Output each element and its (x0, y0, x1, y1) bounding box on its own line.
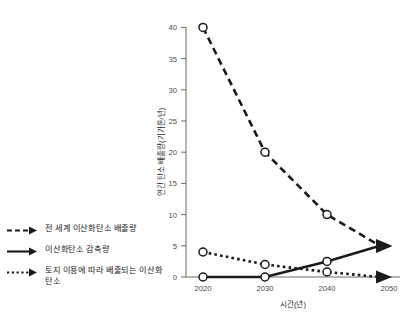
data-point-marker (323, 257, 331, 265)
series-emission-reduction-arrowhead (376, 239, 392, 253)
y-tick-label-40: 40 (169, 23, 177, 32)
y-tick-label-35: 35 (169, 55, 177, 64)
series-emission-reduction (199, 239, 392, 281)
series-land-use-emissions-arrowhead (376, 271, 392, 284)
data-point-marker (199, 23, 207, 31)
data-point-marker (323, 268, 331, 276)
data-point-marker (261, 261, 269, 269)
data-point-marker (261, 273, 269, 281)
y-tick-label-0: 0 (173, 273, 177, 282)
y-tick-label-15: 15 (169, 179, 177, 188)
data-point-marker (199, 273, 207, 281)
y-tick-label-10: 10 (169, 211, 177, 220)
y-tick-label-5: 5 (173, 242, 177, 251)
data-point-marker (199, 248, 207, 256)
y-tick-label-30: 30 (169, 86, 177, 95)
x-axis-title: 시간(년) (280, 299, 307, 309)
data-point-marker (261, 148, 269, 156)
x-tick-label-2040: 2040 (319, 284, 336, 293)
y-axis-title: 연간 탄소 배출량(기가톤/년) (156, 107, 166, 196)
chart-figure: 전 세계 이산화탄소 배출량 이산화탄소 감축량 토지 이용에 따라 배출되는 … (0, 0, 412, 319)
y-tick-label-20: 20 (169, 148, 177, 157)
y-axis-ticks (181, 27, 186, 277)
x-tick-label-2030: 2030 (257, 284, 274, 293)
data-point-marker (323, 211, 331, 219)
series-global-emissions (199, 23, 392, 252)
chart-plot-area: 0 5 10 15 20 25 30 35 40 2020 2030 2040 … (0, 0, 412, 319)
y-tick-label-25: 25 (169, 117, 177, 126)
x-tick-label-2050: 2050 (381, 284, 398, 293)
x-tick-label-2020: 2020 (195, 284, 212, 293)
